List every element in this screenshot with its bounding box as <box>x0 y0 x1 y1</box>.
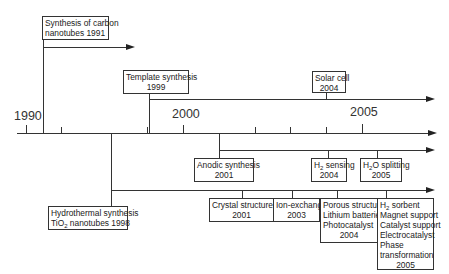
sorbent-connector <box>386 190 387 198</box>
event-hydrothermal-synthesis: Hydrothermal synthesis TiO2 nanotubes 19… <box>48 206 128 230</box>
event-ion-exchange: Ion-exchange 2003 <box>273 198 320 222</box>
event-solar-cell: Solar cell 2004 <box>312 71 346 93</box>
h2o-connector <box>377 150 378 158</box>
event-ionexchange-line2: 2003 <box>276 210 317 220</box>
event-h2sensing-line1: H2 sensing <box>314 160 344 170</box>
event-solar-line2: 2004 <box>315 83 343 93</box>
event-h2o-splitting: H2O splitting 2005 <box>360 158 402 182</box>
event-hydrothermal-line2: TiO2 nanotubes 1998 <box>51 218 125 228</box>
hydrothermal-arrowhead <box>426 187 435 193</box>
event-h2o-line2: 2005 <box>363 170 399 180</box>
event-sorbent-line3: Catalyst support <box>380 220 431 230</box>
year-label-1990: 1990 <box>14 109 42 123</box>
event-hydrothermal-line1: Hydrothermal synthesis <box>51 208 125 218</box>
event-porous-structure: Porous structure Lithium batteries Photo… <box>320 198 378 243</box>
event-ionexchange-line1: Ion-exchange <box>276 200 317 210</box>
hydrothermal-arrow <box>111 190 428 191</box>
event-template-synthesis: Template synthesis 1999 <box>123 70 189 94</box>
h2sensing-connector <box>328 150 329 158</box>
event-sorbent-line7: 2005 <box>380 260 431 270</box>
carbon-connector <box>43 40 44 133</box>
tick-2004 <box>326 127 327 133</box>
event-h2-sensing: H2 sensing 2004 <box>311 158 347 182</box>
year-label-2005: 2005 <box>350 105 378 119</box>
event-solar-line1: Solar cell <box>315 73 343 83</box>
carbon-arrowhead <box>126 44 135 50</box>
event-sorbent-line6: transformation <box>380 250 431 260</box>
tick-2003 <box>290 127 291 133</box>
event-crystal-line2: 2001 <box>212 210 271 220</box>
porous-connector <box>337 190 338 198</box>
event-template-line2: 1999 <box>126 82 186 92</box>
event-sorbent-line2: Magnet support <box>380 210 431 220</box>
template-arrowhead <box>426 96 435 102</box>
event-carbon-nanotubes: Synthesis of carbon nanotubes 1991 <box>42 16 109 40</box>
carbon-arrow <box>43 47 128 48</box>
event-h2sensing-line2: 2004 <box>314 170 344 180</box>
tick-1990 <box>26 125 27 133</box>
tick-1992 <box>61 127 62 133</box>
event-template-line1: Template synthesis <box>126 72 186 82</box>
anodic-arrowhead <box>426 147 435 153</box>
main-axis <box>17 133 429 134</box>
anodic-connector <box>219 133 220 158</box>
event-sorbent-line5: Phase <box>380 240 431 250</box>
event-crystal-line1: Crystal structure <box>212 200 271 210</box>
event-anodic-line2: 2001 <box>197 170 251 180</box>
main-axis-arrowhead <box>428 130 437 136</box>
event-crystal-structure: Crystal structure 2001 <box>209 198 274 222</box>
anodic-arrow <box>219 150 428 151</box>
solar-connector <box>326 93 327 99</box>
event-anodic-synthesis: Anodic synthesis 2001 <box>194 158 254 182</box>
event-carbon-line2: nanotubes 1991 <box>45 28 106 38</box>
ionexchange-connector <box>292 190 293 198</box>
tick-2002 <box>255 127 256 133</box>
event-h2-sorbent-group: H2 sorbent Magnet support Catalyst suppo… <box>377 198 434 270</box>
event-porous-line2: Lithium batteries <box>323 210 375 220</box>
event-porous-line1: Porous structure <box>323 200 375 210</box>
event-anodic-line1: Anodic synthesis <box>197 160 251 170</box>
template-arrow <box>149 99 428 100</box>
event-sorbent-line1: H2 sorbent <box>380 200 431 210</box>
event-porous-line3: Photocatalyst <box>323 220 375 230</box>
year-label-2000: 2000 <box>172 107 200 121</box>
event-sorbent-line4: Electrocatalyst <box>380 230 431 240</box>
event-porous-line4: 2004 <box>323 230 375 240</box>
tick-1999a <box>147 127 148 133</box>
tick-2000 <box>183 125 184 133</box>
crystal-connector <box>242 190 243 198</box>
event-h2o-line1: H2O splitting <box>363 160 399 170</box>
event-carbon-line1: Synthesis of carbon <box>45 18 106 28</box>
hydrothermal-connector <box>111 133 112 208</box>
tick-2005 <box>362 124 363 133</box>
